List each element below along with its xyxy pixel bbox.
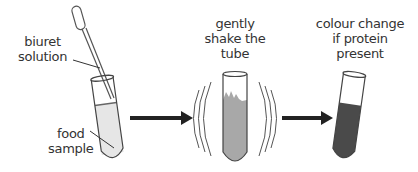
result-label-line: colour change: [310, 16, 410, 31]
shake-instruction-label: gently shake the tube: [200, 16, 270, 61]
arrow-right-icon: [130, 111, 193, 125]
result-label-line: present: [310, 46, 410, 61]
arrow-right-icon: [282, 111, 333, 125]
shake-label-line: tube: [200, 46, 270, 61]
test-tube-shaken-icon: [223, 72, 247, 162]
test-tube-result-icon: [331, 70, 366, 159]
reagent-label-line: solution: [18, 49, 67, 64]
sample-label: food sample: [48, 126, 93, 156]
result-label: colour change if protein present: [310, 16, 410, 61]
reagent-label-line: biuret: [18, 34, 67, 49]
shake-label-line: shake the: [200, 31, 270, 46]
shake-label-line: gently: [200, 16, 270, 31]
sample-label-line: food: [48, 126, 93, 141]
sample-label-line: sample: [48, 141, 93, 156]
test-tube-sample-icon: [90, 74, 124, 159]
result-label-line: if protein: [310, 31, 410, 46]
reagent-label: biuret solution: [18, 34, 67, 64]
